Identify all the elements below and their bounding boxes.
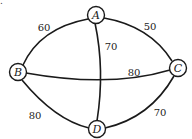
edge-b-c [26, 70, 170, 80]
edge-c-d [105, 76, 174, 128]
weighted-graph: . 60 50 70 80 80 70 A B C D [0, 0, 192, 139]
node-a: A [88, 7, 105, 24]
node-c-label: C [174, 62, 183, 75]
edge-b-d [22, 80, 89, 128]
edge-a-b [23, 19, 88, 65]
corner-mark: . [0, 0, 3, 6]
edge-a-d [95, 23, 101, 121]
weight-b-c: 80 [128, 67, 141, 78]
node-d-label: D [92, 123, 102, 136]
weight-a-c: 50 [144, 21, 157, 32]
node-a-label: A [91, 9, 100, 22]
edge-a-c [104, 18, 172, 61]
weight-a-d: 70 [105, 41, 118, 52]
node-b-label: B [13, 66, 22, 79]
weight-c-d: 70 [154, 107, 167, 118]
node-d: D [89, 121, 106, 138]
weight-a-b: 60 [38, 22, 51, 33]
node-c: C [170, 60, 187, 77]
weight-b-d: 80 [29, 110, 42, 121]
node-b: B [10, 64, 27, 81]
